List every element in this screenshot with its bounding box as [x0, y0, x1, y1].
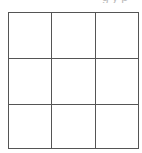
board-cell-r2-c1[interactable] — [9, 59, 52, 105]
board-cell-r1-c3[interactable] — [96, 13, 138, 59]
board-cell-r3-c2[interactable] — [52, 105, 96, 148]
board-cell-r2-c3[interactable] — [96, 59, 138, 105]
board-cell-r1-c2[interactable] — [52, 13, 96, 59]
board-cell-r2-c2[interactable] — [52, 59, 96, 105]
board-cell-r1-c1[interactable] — [9, 13, 52, 59]
game-board — [8, 12, 139, 149]
board-cell-r3-c1[interactable] — [9, 105, 52, 148]
cut-off-header-text: g y p — [0, 0, 142, 3]
board-cell-r3-c3[interactable] — [96, 105, 138, 148]
